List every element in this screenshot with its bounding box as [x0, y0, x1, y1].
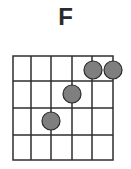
finger-dot-string6-fret1 [104, 61, 122, 79]
finger-dot-string4-fret2 [63, 85, 81, 103]
finger-dot-string5-fret1 [84, 61, 102, 79]
chord-diagram [0, 0, 131, 169]
finger-dots [42, 61, 122, 130]
finger-dot-string3-fret3 [42, 112, 60, 130]
